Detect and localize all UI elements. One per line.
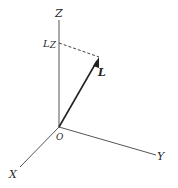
l-vector <box>59 61 97 127</box>
x-axis-label: X <box>8 168 18 181</box>
y-axis <box>59 127 156 155</box>
lz-label: LZ <box>42 38 57 50</box>
angular-momentum-diagram: Z Y X O L LZ <box>0 0 178 188</box>
y-axis-label: Y <box>157 150 166 163</box>
x-axis <box>20 127 59 167</box>
lz-projection-dashed-line <box>59 43 99 57</box>
z-axis-label: Z <box>54 7 63 20</box>
origin-label: O <box>56 132 64 142</box>
vector-l-label: L <box>97 66 106 79</box>
